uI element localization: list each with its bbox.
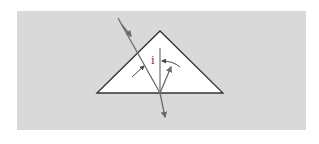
angle-label: i [151,54,155,67]
prism-diagram: i [0,0,319,144]
